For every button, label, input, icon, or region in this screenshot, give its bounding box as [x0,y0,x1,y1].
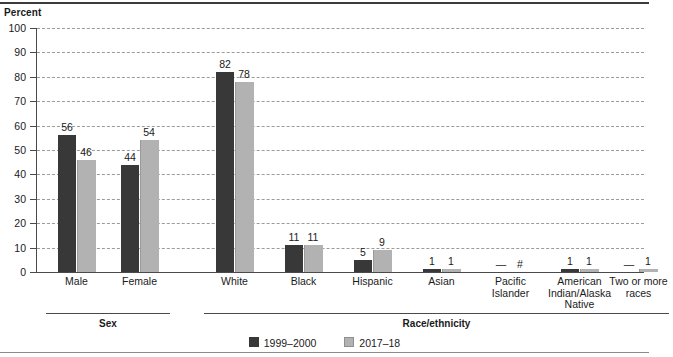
y-tick-100 [30,28,36,29]
y-tick-20 [30,223,36,224]
bar-series-2 [442,269,461,272]
y-tick-label-50: 50 [0,145,26,155]
y-axis-title: Percent [4,7,41,18]
y-tick-40 [30,174,36,175]
bar-series-2 [140,140,159,272]
bar-series-2 [639,269,658,272]
bar-group-asian: 11 [423,28,460,272]
y-tick-label-60: 60 [0,121,26,131]
y-tick-label-40: 40 [0,169,26,179]
bar-series-1 [121,165,139,272]
bar-group-hispanic: 59 [354,28,391,272]
legend-item-series-1: 1999–2000 [249,336,317,349]
legend-item-series-2: 2017–18 [344,336,400,349]
y-tick-70 [30,101,36,102]
value-label-series-1: 56 [56,122,78,133]
y-tick-90 [30,52,36,53]
category-label-female: Female [96,276,184,288]
category-label-line: Female [96,276,184,288]
y-tick-label-70: 70 [0,96,26,106]
bar-group-american-indian-alaska-native: 11 [561,28,598,272]
y-tick-label-100: 100 [0,23,26,33]
value-label-series-2: 46 [75,147,97,158]
legend-label-series-2: 2017–18 [359,337,400,349]
y-tick-label-30: 30 [0,194,26,204]
bar-group-pacific-islander: —# [492,28,529,272]
value-label-series-2: 54 [138,127,160,138]
y-tick-60 [30,126,36,127]
bar-group-black: 1111 [285,28,322,272]
y-tick-label-20: 20 [0,218,26,228]
bar-group-male: 5646 [58,28,95,272]
y-tick-label-90: 90 [0,47,26,57]
value-label-series-1: 44 [119,152,141,163]
legend-label-series-1: 1999–2000 [264,337,317,349]
value-label-series-2: 1 [637,256,659,267]
y-tick-label-10: 10 [0,243,26,253]
bar-series-1 [354,260,372,272]
category-label-two-or-more-races: Two or moreraces [595,276,673,299]
bar-series-2 [304,245,323,272]
x-axis-line [36,272,644,273]
bar-group-two-or-more-races: —1 [620,28,657,272]
y-tick-0 [30,272,36,273]
value-label-series-2: # [509,259,531,270]
chart-legend: 1999–2000 2017–18 [0,336,649,349]
bar-group-white: 8278 [216,28,253,272]
plot-area: 0102030405060708090100 56464454827811115… [36,28,644,272]
y-tick-30 [30,199,36,200]
bar-series-2 [77,160,96,272]
bar-series-2 [373,250,392,272]
value-label-series-1: 5 [352,247,374,258]
y-tick-50 [30,150,36,151]
y-tick-80 [30,77,36,78]
value-label-series-2: 1 [578,256,600,267]
series-1-swatch [249,337,259,347]
bracket-line-race-ethnicity [204,313,669,314]
value-label-series-2: 9 [371,237,393,248]
bar-series-2 [235,82,254,272]
bar-group-female: 4454 [121,28,158,272]
bracket-label-sex: Sex [46,318,170,329]
value-label-series-2: 78 [233,69,255,80]
bar-series-1 [561,269,579,272]
bracket-line-sex [46,313,170,314]
bar-series-1 [423,269,441,272]
top-divider [0,2,649,4]
bar-series-1 [285,245,303,272]
bar-series-1 [216,72,234,272]
category-label-line: Native [536,299,624,311]
category-label-line: Two or more [595,276,673,288]
bottom-divider [0,352,649,353]
bracket-label-race-ethnicity: Race/ethnicity [204,318,669,329]
bar-series-2 [580,269,599,272]
value-label-series-2: 11 [302,232,324,243]
value-label-series-2: 1 [440,256,462,267]
bar-series-1 [58,135,76,272]
y-tick-10 [30,248,36,249]
category-label-line: races [595,288,673,300]
y-tick-label-0: 0 [0,267,26,277]
series-2-swatch [344,337,354,347]
y-tick-label-80: 80 [0,72,26,82]
